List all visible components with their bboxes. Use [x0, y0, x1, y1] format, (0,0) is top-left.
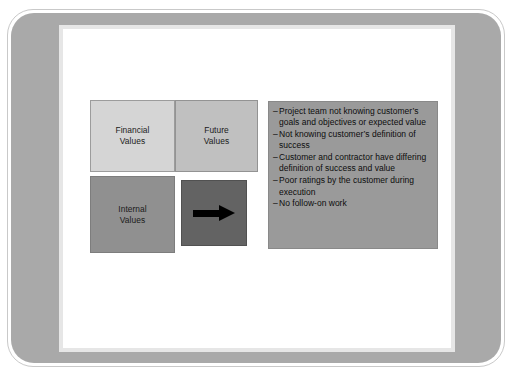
- internal-values-label-line2: Values: [118, 215, 146, 226]
- list-item-text: Not knowing customer’s definition of suc…: [279, 129, 432, 152]
- matrix-cell-arrow: [181, 180, 247, 246]
- right-arrow-head: [219, 205, 235, 221]
- internal-values-label-line1: Internal: [118, 204, 146, 215]
- future-values-label-line1: Future: [204, 125, 229, 136]
- issues-list: – Project team not knowing customer’s go…: [273, 106, 432, 210]
- future-values-label-line2: Values: [204, 136, 229, 147]
- list-item: – Poor ratings by the customer during ex…: [273, 175, 432, 198]
- list-item: – No follow-on work: [273, 198, 432, 209]
- list-item: – Customer and contractor have differing…: [273, 152, 432, 175]
- matrix-cell-internal-values: Internal Values: [90, 176, 175, 253]
- list-item-text: Customer and contractor have differing d…: [279, 152, 432, 175]
- issues-text-block: – Project team not knowing customer’s go…: [268, 101, 438, 249]
- financial-values-label-line1: Financial: [116, 125, 150, 136]
- financial-values-label-line2: Values: [116, 136, 150, 147]
- list-item: – Project team not knowing customer’s go…: [273, 106, 432, 129]
- slide-root: Financial Values Future Values Internal …: [0, 0, 513, 376]
- list-item-text: Poor ratings by the customer during exec…: [279, 175, 432, 198]
- list-item-text: Project team not knowing customer’s goal…: [279, 106, 432, 129]
- matrix-cell-financial-values: Financial Values: [90, 100, 175, 172]
- list-item: – Not knowing customer’s definition of s…: [273, 129, 432, 152]
- right-arrow-icon: [193, 205, 235, 221]
- right-arrow-shaft: [193, 210, 221, 217]
- list-item-text: No follow-on work: [279, 198, 432, 209]
- matrix-cell-future-values: Future Values: [175, 100, 258, 172]
